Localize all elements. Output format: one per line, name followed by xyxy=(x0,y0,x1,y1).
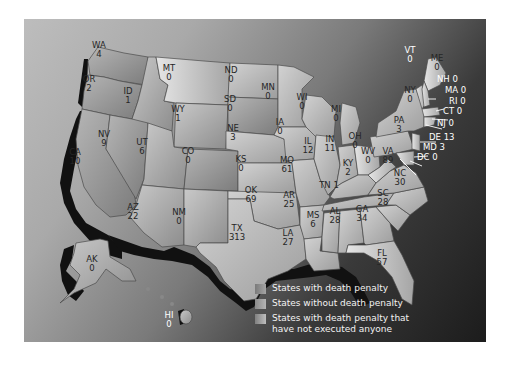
state-hi[interactable] xyxy=(180,310,192,324)
label-ok: OK69 xyxy=(245,186,257,204)
legend: States with death penalty States without… xyxy=(255,283,409,339)
label-pa: PA3 xyxy=(394,116,404,134)
label-sc: SC28 xyxy=(377,189,388,207)
legend-swatch xyxy=(255,314,266,324)
label-nc: NC30 xyxy=(394,169,406,187)
label-nh: NH 0 xyxy=(437,75,458,84)
label-mn: MN0 xyxy=(261,83,275,101)
label-al: AL28 xyxy=(330,207,341,225)
hawaii-island xyxy=(160,295,164,299)
label-ri: RI 0 xyxy=(449,97,466,106)
label-tn: TN 1 xyxy=(319,181,339,190)
state-nm[interactable] xyxy=(184,189,228,247)
label-ca: CA10 xyxy=(69,148,81,166)
legend-item-with-penalty: States with death penalty xyxy=(255,283,409,294)
label-wy: WY1 xyxy=(171,105,185,123)
label-wi: WI0 xyxy=(297,93,308,111)
label-ks: KS0 xyxy=(236,155,247,173)
label-az: AZ22 xyxy=(127,203,139,221)
label-dc: DC 0 xyxy=(417,153,438,162)
label-vt: VT0 xyxy=(404,46,415,64)
label-me: ME0 xyxy=(431,54,444,72)
label-ms: MS6 xyxy=(307,211,320,229)
label-va: VA89 xyxy=(382,147,393,165)
label-or: OR2 xyxy=(83,75,96,93)
label-nv: NV9 xyxy=(98,130,110,148)
label-ut: UT6 xyxy=(136,138,147,156)
label-ak: AK0 xyxy=(86,255,97,273)
label-nj: NJ 0 xyxy=(437,119,454,128)
label-mi: MI0 xyxy=(331,105,341,123)
label-mo: MO61 xyxy=(280,156,294,174)
label-il: IL12 xyxy=(303,137,314,155)
label-nm: NM0 xyxy=(172,208,186,226)
hawaii-island xyxy=(170,302,174,306)
label-md: MD 3 xyxy=(423,143,445,152)
label-ct: CT 0 xyxy=(443,107,462,116)
label-tx: TX313 xyxy=(229,224,245,242)
label-nd: ND0 xyxy=(225,66,238,84)
hawaii-island xyxy=(146,287,150,291)
label-ga: GA34 xyxy=(356,205,368,223)
label-ia: IA0 xyxy=(276,118,284,136)
label-co: CO0 xyxy=(182,147,195,165)
label-ar: AR25 xyxy=(283,191,295,209)
label-oh: OH0 xyxy=(348,132,361,150)
state-nj[interactable] xyxy=(412,133,420,151)
label-ne: NE3 xyxy=(227,124,239,142)
label-hi: HI0 xyxy=(165,311,174,329)
label-in: IN11 xyxy=(325,135,336,153)
label-ny: NY0 xyxy=(404,86,416,104)
label-id: ID1 xyxy=(123,87,132,105)
legend-item-no-executions: States with death penalty thathave not e… xyxy=(255,313,409,335)
label-mt: MT0 xyxy=(163,64,176,82)
state-ct-ri[interactable] xyxy=(424,117,436,127)
state-de-md[interactable] xyxy=(396,151,414,165)
label-sd: SD0 xyxy=(224,95,236,113)
map-frame: WA4 OR2 CA10 ID1 NV9 MT0 WY1 UT6 AZ22 CO… xyxy=(24,19,486,342)
state-ma[interactable] xyxy=(422,107,440,117)
label-la: LA27 xyxy=(283,229,294,247)
legend-swatch xyxy=(255,299,266,309)
label-fl: FL57 xyxy=(377,249,388,267)
label-wa: WA4 xyxy=(92,41,106,59)
legend-item-without-penalty: States without death penalty xyxy=(255,298,409,309)
label-de: DE 13 xyxy=(429,133,454,142)
label-ky: KY2 xyxy=(343,159,353,177)
label-wv: WV0 xyxy=(361,147,375,165)
legend-swatch xyxy=(255,284,266,294)
label-ma: MA 0 xyxy=(445,86,466,95)
